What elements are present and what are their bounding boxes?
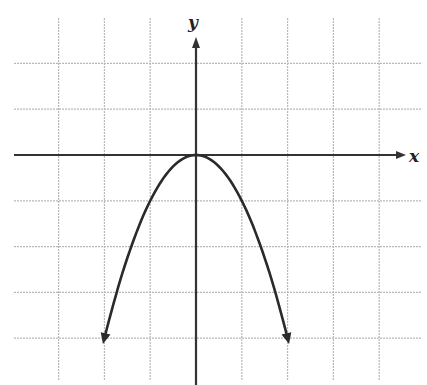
axes xyxy=(14,37,406,385)
x-axis-label: x xyxy=(409,146,419,166)
parabola-graph xyxy=(0,0,427,385)
grid xyxy=(14,18,422,380)
y-axis-label: y xyxy=(188,12,198,32)
